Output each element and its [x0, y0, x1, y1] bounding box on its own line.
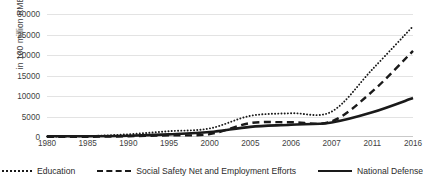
series-line [47, 98, 413, 136]
y-tick-label: 15000 [17, 71, 40, 80]
y-tick-label: 20000 [17, 51, 40, 60]
x-tick-label: 1990 [119, 139, 137, 148]
legend-label: National Defense [357, 166, 423, 176]
legend-item[interactable]: Social Safety Net and Employment Efforts [97, 166, 296, 176]
x-tick-label: 1995 [160, 139, 178, 148]
x-tick-label: 1980 [38, 139, 56, 148]
x-axis-tick-labels: 1980198519901995200020052006200720112016 [47, 139, 413, 153]
y-tick-label: 5000 [22, 112, 40, 121]
x-tick-label: 2005 [241, 139, 259, 148]
x-tick-label: 2000 [201, 139, 219, 148]
x-tick-label: 2007 [323, 139, 341, 148]
y-axis-tick-labels: 050001000015000200002500030000 [0, 14, 44, 137]
legend-swatch-icon [97, 170, 131, 172]
x-tick-label: 2006 [282, 139, 300, 148]
series-line [47, 51, 413, 137]
series-line [47, 26, 413, 136]
y-tick-label: 30000 [17, 10, 40, 19]
x-tick-label: 2016 [404, 139, 422, 148]
x-tick-label: 2011 [364, 139, 382, 148]
series-lines [47, 14, 413, 137]
legend-label: Education [37, 166, 75, 176]
legend-label: Social Safety Net and Employment Efforts [136, 166, 296, 176]
x-tick-label: 1985 [79, 139, 97, 148]
chart-legend: EducationSocial Safety Net and Employmen… [0, 162, 421, 180]
legend-item[interactable]: National Defense [318, 166, 423, 176]
legend-item[interactable]: Education [0, 166, 75, 176]
y-tick-label: 25000 [17, 30, 40, 39]
plot-area [47, 14, 413, 137]
legend-swatch-icon [318, 170, 352, 172]
legend-swatch-icon [0, 170, 32, 172]
y-tick-label: 10000 [17, 92, 40, 101]
